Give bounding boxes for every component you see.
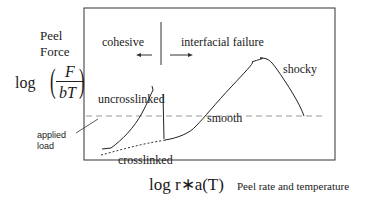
arrow-right-icon bbox=[170, 53, 193, 57]
y-axis-title-line1: Peel bbox=[40, 28, 62, 44]
x-axis-formula: log r∗a(T) bbox=[149, 174, 224, 195]
region-label-cohesive: cohesive bbox=[102, 35, 144, 50]
formula-prefix: log bbox=[15, 74, 35, 92]
x-axis-label: Peel rate and temperature bbox=[237, 180, 349, 192]
curve-label-smooth: smooth bbox=[207, 111, 242, 126]
plot-frame bbox=[84, 8, 335, 160]
applied-load-label: applied load bbox=[37, 130, 66, 152]
paren-open: ( bbox=[50, 62, 56, 100]
curve-label-crosslinked: crosslinked bbox=[118, 153, 173, 168]
formula-denominator: bT bbox=[59, 84, 76, 102]
applied-load-line2: load bbox=[37, 141, 66, 152]
curve-label-shocky: shocky bbox=[283, 62, 317, 77]
applied-load-pointer bbox=[76, 119, 98, 133]
paren-close: ) bbox=[79, 62, 85, 100]
region-label-interfacial: interfacial failure bbox=[181, 35, 264, 50]
curve-label-uncrosslinked: uncrosslinked bbox=[98, 92, 165, 107]
y-axis-title-line2: Force bbox=[40, 44, 70, 60]
arrow-left-icon bbox=[136, 53, 152, 57]
applied-load-line1: applied bbox=[37, 130, 66, 141]
formula-numerator: F bbox=[65, 63, 75, 81]
